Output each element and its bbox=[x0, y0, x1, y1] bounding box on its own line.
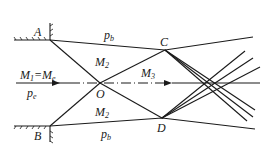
shock-B-O bbox=[50, 83, 100, 126]
label-M2-bottom: M2 bbox=[94, 105, 109, 120]
shock-A-O bbox=[50, 40, 100, 83]
shock-O-D bbox=[100, 83, 162, 118]
label-O: O bbox=[96, 87, 105, 101]
upper-jet-boundary bbox=[50, 37, 253, 50]
label-pb-top: pb bbox=[103, 28, 114, 43]
shock-diagram: A B C D O pb pb M2 M2 M3 M1=Me pe bbox=[0, 0, 269, 156]
label-M2-top: M2 bbox=[94, 55, 109, 70]
label-pb-bottom: pb bbox=[100, 127, 111, 142]
expansion-fan-C bbox=[165, 50, 255, 121]
label-A: A bbox=[33, 25, 42, 39]
label-pe: pe bbox=[26, 86, 37, 101]
diagram-canvas: A B C D O pb pb M2 M2 M3 M1=Me pe bbox=[0, 0, 269, 156]
label-C: C bbox=[160, 35, 169, 49]
lower-jet-boundary bbox=[50, 118, 255, 129]
label-M1-eq-Me: M1=Me bbox=[19, 68, 56, 83]
flow-arrow-icon-2 bbox=[164, 80, 172, 86]
shock-O-C bbox=[100, 50, 165, 83]
label-B: B bbox=[34, 129, 42, 143]
label-M3: M3 bbox=[140, 66, 155, 81]
label-D: D bbox=[156, 121, 166, 135]
